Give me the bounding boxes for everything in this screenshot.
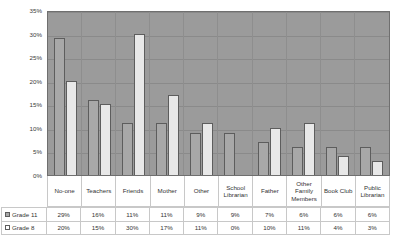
category-label: Friends: [116, 176, 150, 206]
category-axis-labels: No-oneTeachersFriendsMotherOtherSchool L…: [47, 176, 390, 207]
bar: [88, 100, 99, 175]
bar-group: [150, 12, 184, 175]
bar: [338, 156, 349, 175]
table-cell-value: 11%: [287, 222, 321, 235]
table-cell-value: 29%: [47, 208, 81, 221]
table-cell-value: 11%: [150, 208, 184, 221]
category-label: School Librarian: [219, 176, 253, 206]
bar-group: [253, 12, 287, 175]
table-cell-value: 11%: [184, 222, 218, 235]
category-label: Other: [185, 176, 219, 206]
category-label: Father: [253, 176, 287, 206]
y-axis-tick-label: 20%: [30, 79, 42, 85]
bar: [54, 38, 65, 175]
bar: [224, 133, 235, 175]
table-cell-value: 11%: [116, 208, 150, 221]
table-cell-value: 6%: [356, 208, 390, 221]
table-cell-value: 3%: [356, 222, 390, 235]
table-cell-value: 9%: [184, 208, 218, 221]
bar-group: [48, 12, 82, 175]
bar-group: [218, 12, 252, 175]
table-cell-value: 9%: [218, 208, 252, 221]
bar-group: [321, 12, 355, 175]
table-cell-value: 16%: [81, 208, 115, 221]
table-cell-value: 7%: [253, 208, 287, 221]
chart-container: 0%5%10%15%20%25%30%35% No-oneTeachersFri…: [0, 0, 396, 243]
category-label: Other Family Members: [287, 176, 321, 206]
table-row: Grade 11 29%16%11%11%9%9%7%6%6%6%: [2, 208, 390, 222]
y-axis-tick-label: 5%: [33, 149, 42, 155]
y-axis-tick-label: 30%: [30, 31, 42, 37]
table-cell-value: 0%: [218, 222, 252, 235]
bar: [258, 142, 269, 175]
legend-swatch-icon: [5, 225, 10, 230]
table-cell-value: 10%: [253, 222, 287, 235]
legend-item-grade-8: Grade 8: [2, 222, 47, 235]
bar: [202, 123, 213, 175]
table-cell-value: 17%: [150, 222, 184, 235]
category-label: Book Club: [322, 176, 356, 206]
bar: [270, 128, 281, 175]
bar: [326, 147, 337, 175]
table-row: Grade 8 20%15%30%17%11%0%10%11%4%3%: [2, 222, 390, 236]
legend-label: Grade 8: [12, 224, 34, 231]
bar-group: [287, 12, 321, 175]
legend-label: Grade 11: [12, 211, 37, 218]
y-axis-tick-label: 0%: [33, 173, 42, 179]
bar-group: [116, 12, 150, 175]
bar-group: [184, 12, 218, 175]
bar-group: [82, 12, 116, 175]
bar: [122, 123, 133, 175]
bar-group: [355, 12, 389, 175]
y-axis-tick-label: 25%: [30, 55, 42, 61]
table-cell-value: 20%: [47, 222, 81, 235]
category-label: Teachers: [82, 176, 116, 206]
table-cell-value: 15%: [81, 222, 115, 235]
category-label: Public Librarian: [356, 176, 390, 206]
plot-area: [47, 11, 390, 176]
y-axis-tick-label: 15%: [30, 102, 42, 108]
bar: [292, 147, 303, 175]
bar: [190, 133, 201, 175]
bar: [360, 147, 371, 175]
category-label: Mother: [151, 176, 185, 206]
legend-item-grade-11: Grade 11: [2, 208, 47, 221]
y-axis-tick-label: 35%: [30, 8, 42, 14]
bar: [168, 95, 179, 175]
y-axis: 0%5%10%15%20%25%30%35%: [0, 11, 45, 176]
series-2-values: 20%15%30%17%11%0%10%11%4%3%: [47, 222, 390, 235]
bars-layer: [48, 12, 389, 175]
table-cell-value: 6%: [321, 208, 355, 221]
bar: [66, 81, 77, 175]
bar: [156, 123, 167, 175]
legend-swatch-icon: [5, 212, 10, 217]
table-cell-value: 6%: [287, 208, 321, 221]
table-cell-value: 4%: [321, 222, 355, 235]
table-cell-value: 30%: [116, 222, 150, 235]
y-axis-tick-label: 10%: [30, 126, 42, 132]
series-1-values: 29%16%11%11%9%9%7%6%6%6%: [47, 208, 390, 221]
data-table: Grade 11 29%16%11%11%9%9%7%6%6%6% Grade …: [1, 207, 390, 235]
bar: [372, 161, 383, 175]
bar: [304, 123, 315, 175]
category-label: No-one: [48, 176, 82, 206]
bar: [134, 34, 145, 175]
bar: [100, 104, 111, 175]
